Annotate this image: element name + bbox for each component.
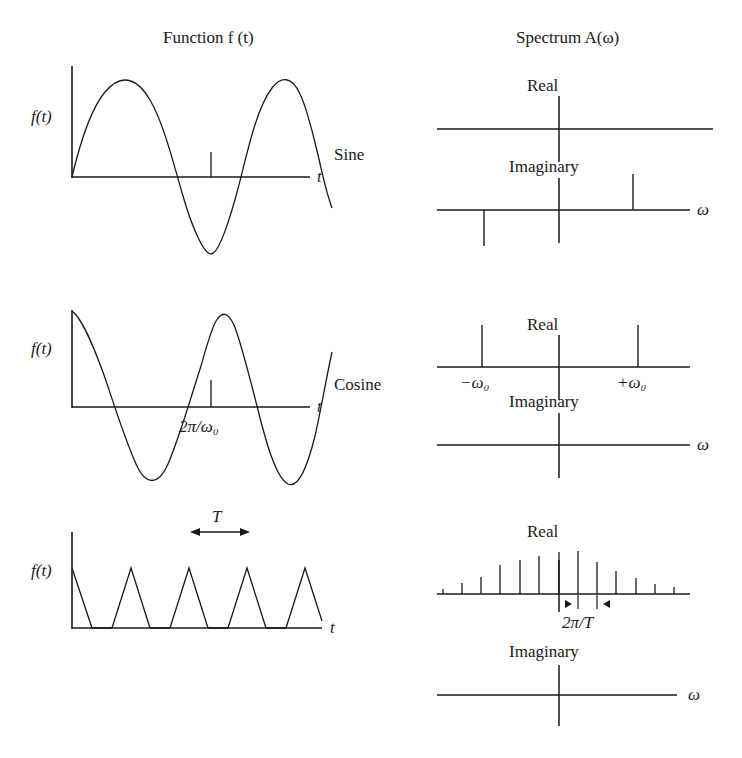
cosine-omega-label: ω — [697, 435, 709, 454]
plot-sine-spectrum: Real Imaginary ω — [437, 76, 713, 246]
triangle-y-axis-label: f(t) — [31, 561, 52, 580]
sine-omega-label: ω — [697, 200, 709, 219]
sine-curve — [72, 80, 332, 254]
plot-cosine-spectrum: Real −ω₀ +ω₀ Imaginary ω — [437, 315, 709, 478]
cosine-period-label: 2π/ω₀ — [179, 417, 219, 436]
sine-imaginary-label: Imaginary — [509, 157, 579, 176]
cosine-y-axis-label: f(t) — [31, 339, 52, 358]
plot-cosine-function: f(t) t Cosine 2π/ω₀ — [31, 310, 381, 485]
cosine-function-label: Cosine — [334, 375, 381, 394]
plot-triangle-spectrum: Real — [437, 522, 700, 726]
triangle-spectral-lines — [443, 551, 674, 594]
sine-function-label: Sine — [334, 145, 364, 164]
triangle-period-label: T — [212, 507, 223, 526]
sine-y-axis-label: f(t) — [31, 107, 52, 126]
sine-real-label: Real — [527, 76, 558, 95]
cosine-negative-omega-label: −ω₀ — [460, 373, 489, 392]
triangle-real-label: Real — [527, 522, 558, 541]
triangle-x-axis-label: t — [330, 618, 336, 637]
cosine-real-label: Real — [527, 315, 558, 334]
sine-x-axis-label: t — [317, 167, 323, 186]
triangle-spacing-label: 2π/T — [562, 613, 595, 632]
cosine-imaginary-label: Imaginary — [509, 392, 579, 411]
triangle-omega-label: ω — [688, 685, 700, 704]
fourier-transform-pairs-figure: Function f (t) Spectrum A(ω) f(t) t Sine… — [0, 0, 742, 758]
triangle-period-arrow — [190, 528, 250, 536]
plot-triangle-function: f(t) t T — [31, 507, 336, 637]
triangle-spacing-indicator — [565, 595, 610, 609]
figure-canvas: f(t) t Sine Real Imaginary ω f(t) — [0, 0, 742, 758]
cosine-curve — [72, 311, 332, 485]
cosine-positive-omega-label: +ω₀ — [617, 373, 646, 392]
triangle-imaginary-label: Imaginary — [509, 642, 579, 661]
triangle-waveform — [72, 568, 322, 628]
plot-sine-function: f(t) t Sine — [31, 66, 364, 254]
